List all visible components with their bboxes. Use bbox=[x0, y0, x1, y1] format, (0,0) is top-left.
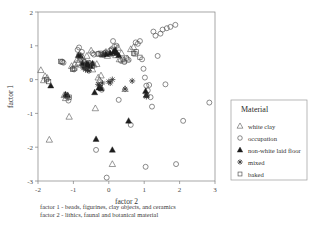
legend-item-label: occupation bbox=[248, 135, 278, 142]
plot-svg: -2-10123210-1-2-3 factor 2factor 1 Mater… bbox=[0, 0, 321, 236]
svg-text:-3: -3 bbox=[27, 178, 33, 186]
legend-title: Material bbox=[241, 105, 269, 114]
svg-text:factor 1: factor 1 bbox=[6, 85, 15, 108]
legend-item-label: white clay bbox=[248, 123, 276, 130]
svg-text:-1: -1 bbox=[27, 110, 33, 118]
svg-text:-1: -1 bbox=[70, 186, 76, 194]
caption-line: factor 1 - beads, figurines, clay object… bbox=[40, 203, 176, 210]
legend-item-label: baked bbox=[248, 171, 264, 178]
svg-text:3: 3 bbox=[213, 186, 217, 194]
axis-ticks: -2-10123210-1-2-3 bbox=[27, 9, 217, 195]
figure-captions: factor 1 - beads, figurines, clay object… bbox=[40, 203, 176, 218]
svg-text:0: 0 bbox=[107, 186, 111, 194]
series-mixed bbox=[80, 65, 150, 99]
legend: Materialwhite clayoccupationnon-white la… bbox=[231, 100, 307, 180]
legend-item-label: mixed bbox=[248, 159, 265, 166]
svg-text:0: 0 bbox=[30, 76, 34, 84]
legend-item-label: non-white laid floor bbox=[248, 147, 302, 154]
caption-line: factor 2 - lithics, faunal and botanical… bbox=[40, 211, 158, 218]
svg-text:-2: -2 bbox=[27, 144, 33, 152]
svg-text:1: 1 bbox=[142, 186, 146, 194]
scatter-plot-figure: -2-10123210-1-2-3 factor 2factor 1 Mater… bbox=[0, 0, 321, 236]
svg-text:2: 2 bbox=[178, 186, 182, 194]
data-points bbox=[38, 22, 212, 180]
svg-text:2: 2 bbox=[30, 9, 34, 17]
series-occupation bbox=[60, 22, 212, 180]
svg-text:-2: -2 bbox=[35, 186, 41, 194]
svg-text:1: 1 bbox=[30, 42, 34, 50]
